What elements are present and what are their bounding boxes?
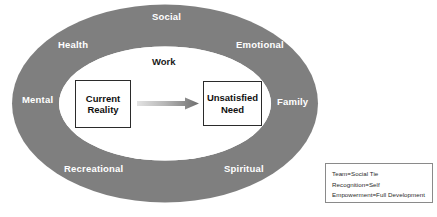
ring-label-family: Family [277, 97, 308, 107]
legend-line-empowerment: Empowerment=Full Development [332, 190, 427, 201]
legend-line-team: Team=Social Tie [332, 169, 427, 180]
diagram-canvas: Social Health Emotional Mental Family Re… [0, 0, 437, 217]
ring-label-health: Health [58, 40, 88, 50]
ring-label-emotional: Emotional [236, 40, 284, 50]
ring-label-recreational: Recreational [64, 164, 123, 174]
node-current-reality-label: Current Reality [86, 93, 120, 115]
legend-line-recognition: Recognition=Self [332, 180, 427, 191]
ring-label-spiritual: Spiritual [224, 164, 264, 174]
ring-label-social: Social [152, 12, 181, 22]
legend-box: Team=Social Tie Recognition=Self Empower… [325, 163, 433, 203]
node-unsatisfied-need: Unsatisfied Need [203, 81, 262, 126]
node-current-reality: Current Reality [75, 80, 131, 128]
ring-label-mental: Mental [22, 95, 53, 105]
inner-label-work: Work [152, 57, 176, 67]
node-unsatisfied-need-label: Unsatisfied Need [207, 92, 258, 114]
